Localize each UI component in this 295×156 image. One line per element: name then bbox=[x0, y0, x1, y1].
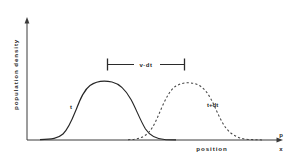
curve-t-label: t bbox=[70, 104, 72, 110]
curve-t-plus-dt-label: t+dt bbox=[207, 102, 218, 108]
curve-t-plus-dt bbox=[128, 83, 262, 140]
displacement-label: v·dt bbox=[140, 62, 153, 68]
y-axis bbox=[25, 17, 30, 140]
gaussian-drift-figure: v·dt t t+dt population density position … bbox=[0, 0, 295, 156]
y-axis-label: population density bbox=[12, 39, 19, 110]
curve-t bbox=[40, 81, 176, 140]
y-axis-variable: p bbox=[279, 132, 283, 138]
displacement-bracket: v·dt bbox=[108, 59, 185, 71]
x-axis bbox=[27, 138, 283, 143]
x-axis-variable: x bbox=[279, 146, 283, 152]
y-axis-arrowhead bbox=[25, 17, 30, 24]
x-axis-label: position bbox=[196, 145, 227, 152]
x-axis-arrowhead bbox=[277, 138, 284, 143]
plot-area: v·dt t t+dt population density position … bbox=[0, 0, 295, 156]
